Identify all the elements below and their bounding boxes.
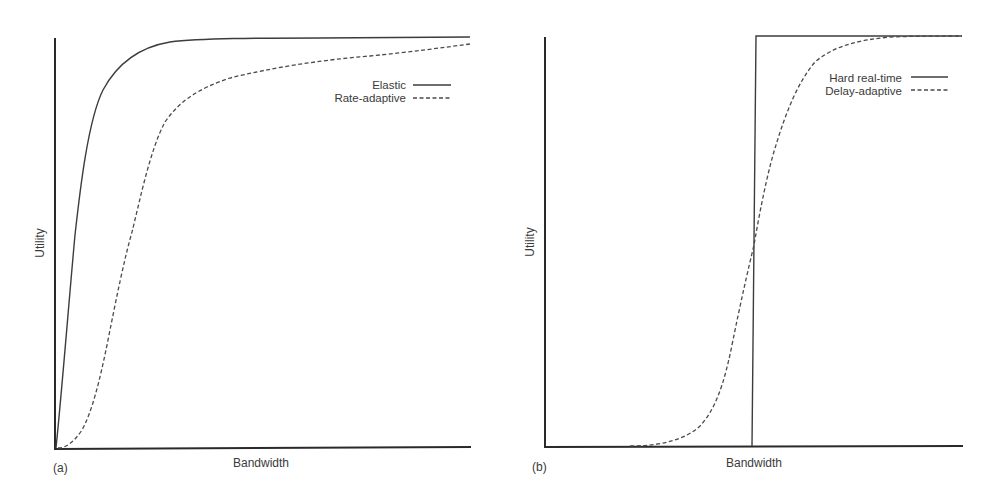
panel-b-tag: (b) bbox=[532, 460, 547, 474]
panel-a-legend: Elastic Rate-adaptive bbox=[334, 79, 451, 104]
rate-adaptive-curve bbox=[58, 44, 470, 448]
legend-label-delay-adaptive: Delay-adaptive bbox=[825, 85, 902, 97]
panel-a-x-label: Bandwidth bbox=[233, 456, 289, 470]
legend-label-rate-adaptive: Rate-adaptive bbox=[334, 92, 406, 104]
panel-b-legend: Hard real-time Delay-adaptive bbox=[825, 72, 948, 97]
panel-b: Utility Bandwidth (b) Hard real-time Del… bbox=[523, 36, 962, 474]
panel-a-x-axis bbox=[55, 447, 470, 449]
panel-b-x-label: Bandwidth bbox=[726, 456, 782, 470]
legend-label-hard-real-time: Hard real-time bbox=[829, 72, 902, 84]
panel-b-y-label: Utility bbox=[523, 227, 537, 256]
hard-real-time-curve bbox=[752, 36, 962, 446]
panel-a-y-label: Utility bbox=[33, 228, 47, 257]
delay-adaptive-curve bbox=[630, 36, 962, 446]
legend-label-elastic: Elastic bbox=[372, 79, 406, 91]
elastic-curve bbox=[56, 37, 470, 448]
panel-b-x-axis bbox=[545, 446, 962, 447]
utility-curves-figure: Utility Bandwidth (a) Elastic Rate-adapt… bbox=[0, 0, 1000, 498]
panel-a: Utility Bandwidth (a) Elastic Rate-adapt… bbox=[33, 37, 470, 475]
panel-a-tag: (a) bbox=[53, 461, 68, 475]
